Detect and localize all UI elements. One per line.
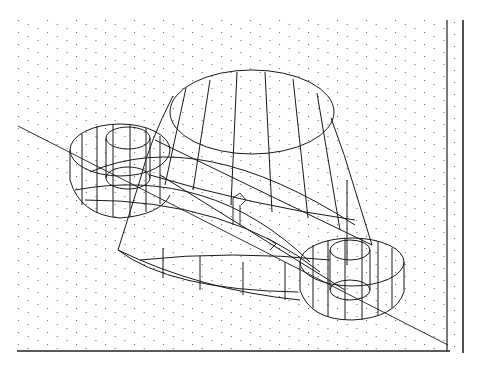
grid-dot: [289, 192, 290, 193]
grid-dot: [269, 232, 270, 233]
grid-dot: [443, 64, 444, 65]
grid-dot: [424, 296, 425, 297]
grid-dot: [327, 100, 328, 101]
model-canvas[interactable]: [0, 0, 485, 375]
grid-dot: [211, 40, 212, 41]
grid-dot: [279, 212, 280, 213]
grid-dot: [260, 132, 261, 133]
grid-dot: [37, 160, 38, 161]
grid-dot: [376, 216, 377, 217]
grid-dot: [366, 332, 367, 333]
grid-dot: [250, 104, 251, 105]
grid-dot: [192, 236, 193, 237]
grid-dot: [443, 52, 444, 53]
grid-dot: [395, 332, 396, 333]
grid-dot: [182, 196, 183, 197]
grid-dot: [279, 92, 280, 93]
grid-dot: [211, 112, 212, 113]
grid-dot: [163, 92, 164, 93]
grid-dot: [260, 60, 261, 61]
grid-dot: [395, 104, 396, 105]
grid-dot: [76, 140, 77, 141]
grid-dot: [76, 284, 77, 285]
grid-dot: [192, 104, 193, 105]
grid-dot: [18, 236, 19, 237]
grid-dot: [424, 140, 425, 141]
grid-dot: [250, 260, 251, 261]
grid-dot: [95, 268, 96, 269]
drawing-viewport[interactable]: [0, 0, 485, 375]
grid-dot: [454, 286, 455, 287]
grid-dot: [231, 324, 232, 325]
grid-dot: [250, 176, 251, 177]
grid-dot: [57, 240, 58, 241]
grid-dot: [144, 300, 145, 301]
grid-dot: [86, 324, 87, 325]
grid-dot: [134, 104, 135, 105]
grid-dot: [231, 264, 232, 265]
grid-dot: [28, 192, 29, 193]
grid-dot: [153, 160, 154, 161]
grid-dot: [454, 130, 455, 131]
grid-dot: [366, 272, 367, 273]
grid-dot: [134, 320, 135, 321]
grid-dot: [66, 268, 67, 269]
grid-dot: [182, 304, 183, 305]
grid-dot: [124, 64, 125, 65]
grid-dot: [385, 316, 386, 317]
grid-dot: [37, 100, 38, 101]
grid-dot: [366, 320, 367, 321]
grid-dot: [289, 36, 290, 37]
grid-dot: [37, 268, 38, 269]
grid-dot: [250, 164, 251, 165]
grid-dot: [211, 28, 212, 29]
right-inner-hole: [330, 240, 370, 300]
grid-dot: [356, 268, 357, 269]
grid-dot: [434, 216, 435, 217]
grid-dot: [289, 72, 290, 73]
grid-dot: [395, 260, 396, 261]
grid-dot: [395, 140, 396, 141]
grid-dot: [231, 96, 232, 97]
grid-dot: [318, 180, 319, 181]
grid-dot: [28, 168, 29, 169]
grid-dot: [231, 156, 232, 157]
grid-dot: [28, 108, 29, 109]
grid-dot: [221, 320, 222, 321]
wireframe-model[interactable]: [18, 70, 448, 345]
grid-dot: [57, 168, 58, 169]
grid-dot: [105, 80, 106, 81]
grid-dot: [231, 132, 232, 133]
grid-dot: [289, 24, 290, 25]
grid-dot: [269, 52, 270, 53]
grid-dot: [144, 204, 145, 205]
grid-dot: [366, 176, 367, 177]
grid-dot: [105, 56, 106, 57]
left-small-boss[interactable]: [70, 124, 170, 218]
grid-dot: [279, 344, 280, 345]
grid-dot: [134, 68, 135, 69]
grid-dot: [95, 148, 96, 149]
grid-dot: [115, 84, 116, 85]
grid-dot: [18, 248, 19, 249]
grid-dot: [434, 60, 435, 61]
grid-dot: [289, 252, 290, 253]
grid-dot: [163, 224, 164, 225]
grid-dot: [318, 132, 319, 133]
central-tapered-boss[interactable]: [118, 70, 372, 250]
grid-dot: [366, 68, 367, 69]
grid-dot: [105, 104, 106, 105]
grid-dot: [124, 196, 125, 197]
grid-dot: [163, 128, 164, 129]
grid-dot: [153, 148, 154, 149]
grid-dot: [202, 348, 203, 349]
grid-dot: [308, 332, 309, 333]
grid-dot: [395, 296, 396, 297]
grid-dot: [327, 76, 328, 77]
grid-dot: [192, 320, 193, 321]
right-small-boss[interactable]: [300, 238, 404, 320]
grid-dot: [202, 180, 203, 181]
grid-dot: [134, 44, 135, 45]
grid-dot: [57, 108, 58, 109]
web-tangent-line-2: [160, 175, 345, 290]
